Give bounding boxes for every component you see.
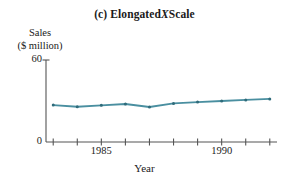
data-point-1990 [220, 100, 223, 103]
data-point-1985 [100, 104, 103, 107]
series-line-sales [53, 99, 270, 107]
plot-area [0, 0, 289, 184]
data-point-1989 [196, 101, 199, 104]
data-point-1988 [172, 102, 175, 105]
data-point-1984 [76, 105, 79, 108]
chart-figure: (c)ElongatedXScale Sales ($ million) 60 … [0, 0, 289, 184]
axes [43, 60, 278, 142]
data-point-1992 [268, 97, 271, 100]
data-point-1983 [52, 104, 55, 107]
data-point-1987 [148, 106, 151, 109]
data-point-1991 [244, 98, 247, 101]
data-point-1986 [124, 103, 127, 106]
data-series-sales [52, 97, 272, 108]
